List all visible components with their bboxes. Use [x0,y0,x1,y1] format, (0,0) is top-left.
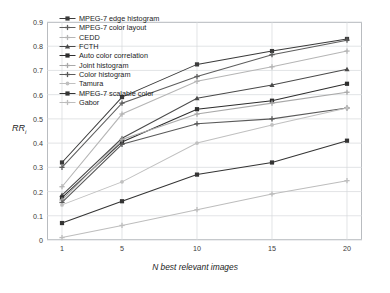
y-axis-label: RRi [12,123,26,135]
y-tick-label: 0.8 [21,42,43,51]
legend-marker-icon [59,89,76,98]
legend-item-5[interactable]: Joint histogram [59,60,159,69]
legend-item-4[interactable]: Auto color correlation [59,51,159,60]
legend-label: Tamura [79,79,103,88]
legend-item-7[interactable]: Tamura [59,79,159,88]
y-tick-label: 0.3 [21,163,43,172]
x-axis-label: N best relevant images [0,262,390,272]
x-tick-label: 15 [260,244,284,253]
chart-container: 00.10.20.30.40.50.60.70.80.9 15101520 RR… [0,0,390,293]
legend-marker-icon [59,70,76,79]
y-tick-label: 0.2 [21,187,43,196]
legend-marker-icon [59,14,76,23]
legend-label: Auto color correlation [79,51,148,60]
legend-marker-icon [59,51,76,60]
legend-marker-icon [59,98,76,107]
legend-marker-icon [59,61,76,70]
y-tick-label: 0.4 [21,139,43,148]
y-tick-label: 0.7 [21,66,43,75]
series-9 [59,178,349,240]
legend-marker-icon [59,23,76,32]
legend-item-8[interactable]: MPEG-7 scalable color [59,88,159,97]
y-tick-label: 0.6 [21,90,43,99]
legend-label: Gabor [79,98,99,107]
y-tick-label: 0.1 [21,211,43,220]
chart-legend: MPEG-7 edge histogramMPEG-7 color layout… [59,14,159,107]
legend-item-9[interactable]: Gabor [59,98,159,107]
legend-label: CEDD [79,33,100,42]
legend-marker-icon [59,42,76,51]
legend-item-6[interactable]: Color histogram [59,70,159,79]
legend-label: Joint histogram [79,61,128,70]
x-tick-label: 1 [50,244,74,253]
x-tick-label: 10 [185,244,209,253]
legend-marker-icon [59,33,76,42]
series-6 [59,105,349,205]
x-tick-label: 5 [110,244,134,253]
legend-item-0[interactable]: MPEG-7 edge histogram [59,14,159,23]
legend-item-3[interactable]: FCTH [59,42,159,51]
series-8 [60,139,349,226]
legend-item-1[interactable]: MPEG-7 color layout [59,23,159,32]
y-tick-label: 0.9 [21,18,43,27]
legend-item-2[interactable]: CEDD [59,33,159,42]
y-tick-label: 0 [21,236,43,245]
legend-label: MPEG-7 edge histogram [79,14,159,23]
x-tick-label: 20 [335,244,359,253]
legend-label: MPEG-7 scalable color [79,89,154,98]
legend-label: FCTH [79,42,98,51]
legend-marker-icon [59,79,76,88]
legend-label: MPEG-7 color layout [79,23,146,32]
legend-label: Color histogram [79,70,131,79]
